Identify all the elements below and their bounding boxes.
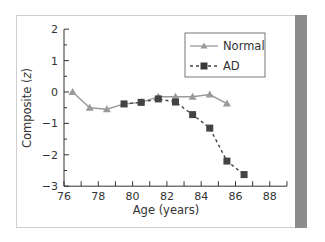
y-tick-label: −1 bbox=[42, 117, 58, 130]
square-marker bbox=[138, 99, 145, 106]
legend-ad-label: AD bbox=[223, 59, 240, 73]
square-marker bbox=[206, 125, 213, 132]
x-tick-label: 76 bbox=[57, 190, 71, 203]
triangle-marker bbox=[206, 91, 214, 98]
y-axis-title: Composite (z) bbox=[20, 68, 34, 148]
y-tick-label: −2 bbox=[42, 149, 58, 162]
x-tick-label: 88 bbox=[263, 190, 277, 203]
y-tick-label: 1 bbox=[51, 55, 58, 68]
square-marker bbox=[223, 158, 230, 165]
triangle-marker bbox=[69, 88, 77, 95]
x-tick-label: 82 bbox=[160, 190, 174, 203]
legend-ad-square-icon bbox=[201, 63, 208, 70]
square-marker bbox=[189, 111, 196, 118]
square-marker bbox=[172, 99, 179, 106]
y-tick-label: 2 bbox=[51, 23, 58, 36]
square-marker bbox=[241, 171, 248, 178]
y-tick-label: 0 bbox=[51, 86, 58, 99]
x-tick-label: 78 bbox=[91, 190, 105, 203]
legend: Normal AD bbox=[185, 33, 265, 77]
x-axis-title: Age (years) bbox=[133, 203, 200, 217]
y-tick-label: −3 bbox=[42, 180, 58, 193]
x-tick-label: 86 bbox=[229, 190, 243, 203]
line-chart: 210−1−2−376788082848688 Normal AD Age (y… bbox=[0, 0, 325, 242]
square-marker bbox=[155, 95, 162, 102]
square-marker bbox=[121, 100, 128, 107]
x-tick-label: 80 bbox=[126, 190, 140, 203]
x-tick-label: 84 bbox=[194, 190, 208, 203]
legend-normal-label: Normal bbox=[223, 39, 265, 53]
triangle-marker bbox=[223, 100, 231, 107]
series-ad bbox=[121, 95, 248, 178]
